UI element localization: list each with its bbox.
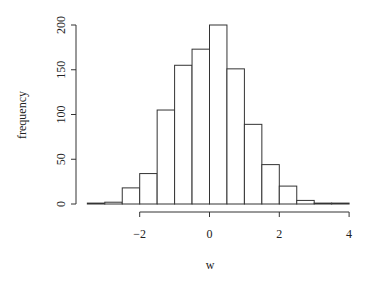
y-axis-label: frequency <box>15 91 29 139</box>
x-tick-label: 0 <box>207 227 213 241</box>
histogram-bar <box>332 203 349 204</box>
histogram-chart: 050100150200 −2024 w frequency <box>0 0 371 285</box>
x-tick-label: −2 <box>133 227 146 241</box>
histogram-bar <box>140 174 157 204</box>
histogram-bar <box>175 65 192 204</box>
histogram-bar <box>244 124 261 204</box>
histogram-bar <box>157 110 174 204</box>
histogram-bar <box>279 186 296 204</box>
histogram-bar <box>87 203 104 204</box>
histogram-bar <box>192 49 209 204</box>
y-tick-label: 50 <box>54 153 68 165</box>
histogram-bar <box>105 202 122 204</box>
y-axis: 050100150200 <box>54 16 76 207</box>
histogram-bar <box>297 200 314 204</box>
x-tick-label: 2 <box>276 227 282 241</box>
x-axis: −2024 <box>133 212 352 241</box>
histogram-bar <box>314 203 331 204</box>
x-axis-label: w <box>206 258 215 272</box>
y-tick-label: 100 <box>54 106 68 124</box>
histogram-bar <box>262 165 279 204</box>
histogram-bar <box>210 25 227 204</box>
y-tick-label: 150 <box>54 61 68 79</box>
x-tick-label: 4 <box>346 227 352 241</box>
y-tick-label: 200 <box>54 16 68 34</box>
histogram-bar <box>227 69 244 204</box>
histogram-bar <box>122 188 139 204</box>
y-tick-label: 0 <box>54 201 68 207</box>
histogram-bars <box>87 25 349 204</box>
